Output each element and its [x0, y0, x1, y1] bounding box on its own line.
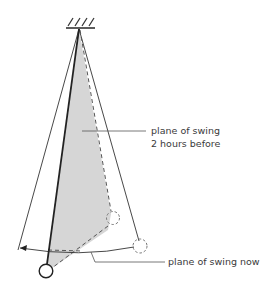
label-now: plane of swing now — [168, 255, 260, 268]
label-before-line1: plane of swing — [151, 124, 220, 137]
leader-now — [91, 252, 165, 262]
label-before: plane of swing 2 hours before — [151, 124, 220, 150]
arc-arrowhead-icon — [20, 245, 27, 251]
swing-plane-shade — [47, 29, 111, 268]
ceiling-mount — [66, 18, 95, 28]
pendulum-diagram — [0, 0, 277, 298]
label-before-line2: 2 hours before — [151, 137, 220, 150]
right-limit-bob — [133, 239, 147, 253]
pendulum-bob — [39, 264, 53, 278]
